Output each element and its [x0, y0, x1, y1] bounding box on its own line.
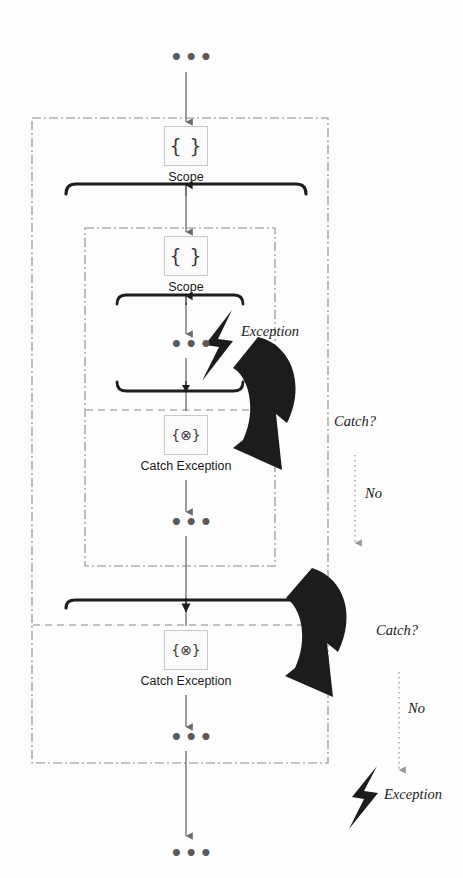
annotation-outer-catch-no: No: [408, 700, 425, 717]
catch-exception-icon: {⊗}: [171, 643, 201, 657]
diagram-vector-layer: [0, 0, 463, 878]
annotation-outer-catch-question: Catch?: [376, 622, 418, 639]
ellipsis-inner-try-body: •••: [170, 334, 214, 354]
node-outer-scope-label: Scope: [148, 170, 224, 184]
ellipsis-outer-catch-body: •••: [170, 727, 214, 747]
node-inner-catch-exception-label: Catch Exception: [116, 459, 256, 473]
curved-arrow-inner-exception-to-catch: [233, 337, 296, 470]
node-inner-scope[interactable]: { }: [164, 236, 208, 276]
annotation-escaped-exception: Exception: [384, 786, 442, 803]
node-outer-catch-exception[interactable]: {⊗}: [164, 630, 208, 670]
catch-exception-icon: {⊗}: [171, 428, 201, 442]
scope-braces-icon: { }: [169, 247, 202, 266]
node-outer-scope[interactable]: { }: [164, 126, 208, 166]
ellipsis-flow-end: •••: [170, 843, 214, 863]
inner-try-bracket-top: [117, 295, 243, 305]
annotation-inner-catch-no: No: [365, 485, 382, 502]
outer-scope-body-bracket: [66, 184, 306, 196]
node-outer-catch-exception-label: Catch Exception: [116, 674, 256, 688]
lightning-bolt-icon-escaped-exception: [349, 766, 378, 829]
inner-try-bracket-bottom: [117, 381, 243, 392]
diagram-canvas: ••• ••• ••• ••• ••• { } Scope { } Scope …: [0, 0, 463, 878]
node-inner-scope-label: Scope: [148, 280, 224, 294]
ellipsis-inner-catch-body: •••: [170, 512, 214, 532]
node-inner-catch-exception[interactable]: {⊗}: [164, 415, 208, 455]
annotation-inner-exception: Exception: [241, 323, 299, 340]
ellipsis-flow-start: •••: [170, 47, 214, 67]
annotation-inner-catch-question: Catch?: [334, 413, 376, 430]
curved-arrow-outer-exception-to-catch: [285, 568, 347, 697]
outer-try-bracket-bottom: [66, 598, 306, 613]
scope-braces-icon: { }: [169, 137, 202, 156]
